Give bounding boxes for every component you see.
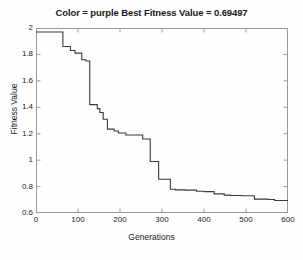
figure-canvas: Color = purple Best Fitness Value = 0.69…	[0, 0, 303, 260]
x-tick-label: 500	[226, 216, 266, 224]
y-tick-label: 1.4	[22, 103, 33, 111]
x-tick-label: 300	[142, 216, 182, 224]
plot-svg	[36, 28, 288, 213]
chart-title: Color = purple Best Fitness Value = 0.69…	[0, 7, 303, 18]
x-tick-label: 0	[16, 216, 56, 224]
x-tick-label: 100	[58, 216, 98, 224]
x-tick-label: 400	[184, 216, 224, 224]
y-tick-label: 2	[29, 24, 33, 32]
plot-background	[36, 28, 288, 213]
x-tick-label: 600	[268, 216, 303, 224]
y-tick-label: 1.6	[22, 77, 33, 85]
y-tick-label: 1.8	[22, 50, 33, 58]
x-axis-tick-labels: 0100200300400500600	[0, 216, 303, 228]
y-tick-label: 1	[29, 156, 33, 164]
y-tick-label: 0.8	[22, 183, 33, 191]
plot-area	[36, 28, 288, 213]
x-axis-label: Generations	[0, 232, 303, 242]
y-axis-label: Fitness Value	[9, 64, 19, 154]
x-tick-label: 200	[100, 216, 140, 224]
y-tick-label: 1.2	[22, 130, 33, 138]
